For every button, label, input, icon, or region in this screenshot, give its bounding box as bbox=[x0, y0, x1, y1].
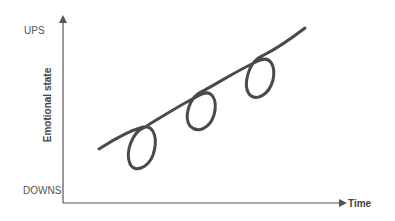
y-axis-label: Emotional state bbox=[42, 68, 53, 142]
x-axis-label: Time bbox=[348, 198, 371, 210]
emotional-spiral-curve bbox=[99, 28, 305, 169]
ups-label: UPS bbox=[24, 25, 45, 37]
downs-label: DOWNS bbox=[23, 185, 61, 197]
emotional-state-diagram: UPS DOWNS Emotional state Time bbox=[0, 0, 395, 221]
